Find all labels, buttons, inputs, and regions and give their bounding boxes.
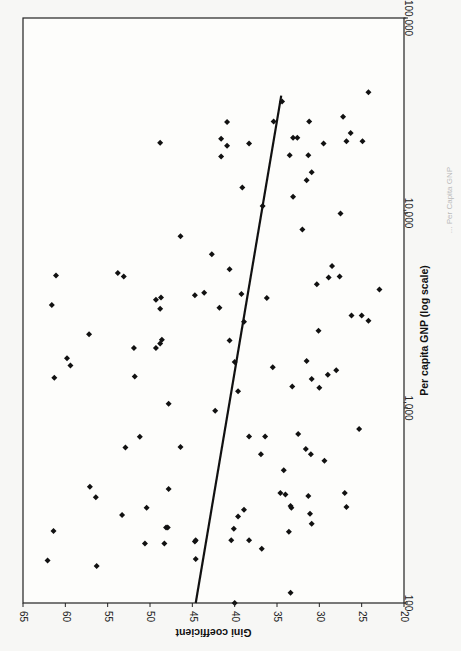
- gini-tick-label: 40: [230, 611, 241, 623]
- figure-caption: ... Per Capita GNP: [445, 167, 454, 233]
- gnp-tick-label: 1,000: [403, 395, 414, 420]
- gini-axis-ticks: 65605550454035302520: [18, 603, 410, 623]
- gnp-axis-title: Per capita GNP (log scale): [418, 265, 430, 396]
- gini-tick-label: 35: [272, 611, 283, 623]
- gini-tick-label: 50: [145, 611, 156, 623]
- gini-tick-label: 65: [18, 611, 29, 623]
- gnp-tick-label: 100,000: [403, 0, 414, 37]
- gnp-tick-label: 10,000: [403, 198, 414, 229]
- gini-tick-label: 30: [315, 611, 326, 623]
- scatter-chart: 65605550454035302520 1001,00010,000100,0…: [0, 0, 461, 651]
- gini-axis-title: Gini coefficient: [175, 627, 251, 639]
- gini-tick-label: 45: [188, 611, 199, 623]
- gini-tick-label: 55: [103, 611, 114, 623]
- plot-area-frame: [23, 18, 404, 603]
- gini-tick-label: 25: [357, 611, 368, 623]
- gini-tick-label: 20: [399, 611, 410, 623]
- gnp-tick-label: 100: [403, 595, 414, 612]
- gini-tick-label: 60: [61, 611, 72, 623]
